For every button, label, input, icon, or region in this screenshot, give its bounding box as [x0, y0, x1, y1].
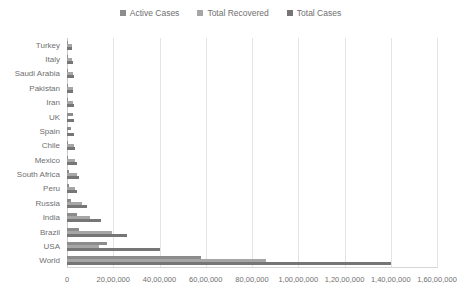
bar-group [67, 239, 437, 253]
bar-group [67, 52, 437, 66]
bar-total-cases[interactable] [67, 104, 74, 107]
plot-area-wrapper: TurkeyItalySaudi ArabiaPakistanIranUKSpa… [0, 32, 461, 294]
bar-group [67, 124, 437, 138]
legend-item[interactable]: Active Cases [120, 8, 180, 18]
y-axis-label: UK [0, 110, 64, 124]
legend-item[interactable]: Total Recovered [197, 8, 268, 18]
y-axis-label: Peru [0, 182, 64, 196]
x-axis-tick-label: 0 [65, 275, 69, 284]
bar-group [67, 153, 437, 167]
bar-group [67, 167, 437, 181]
y-axis-label: Turkey [0, 38, 64, 52]
legend-item-label: Total Cases [297, 8, 341, 18]
gridline [437, 38, 438, 268]
plot-area [67, 38, 437, 268]
y-axis-label: Saudi Arabia [0, 67, 64, 81]
bar-total-cases[interactable] [67, 47, 72, 50]
y-axis-label: Chile [0, 139, 64, 153]
bar-group [67, 254, 437, 268]
bar-total-cases[interactable] [67, 90, 73, 93]
bar-total-cases[interactable] [67, 61, 73, 64]
bar-total-cases[interactable] [67, 147, 75, 150]
bar-group [67, 196, 437, 210]
bar-group [67, 225, 437, 239]
y-axis-label: Iran [0, 96, 64, 110]
y-axis-label: Mexico [0, 153, 64, 167]
bar-total-cases[interactable] [67, 176, 79, 179]
x-axis-tick-label: 60,00,000 [189, 275, 222, 284]
bar-group [67, 139, 437, 153]
bar-total-cases[interactable] [67, 248, 160, 251]
bar-total-cases[interactable] [67, 133, 74, 136]
y-axis-label: World [0, 254, 64, 268]
y-axis-label: USA [0, 239, 64, 253]
bar-active-cases[interactable] [67, 113, 73, 116]
x-axis-tick-label: 1,60,00,000 [417, 275, 457, 284]
bar-active-cases[interactable] [67, 127, 71, 130]
chart-legend: Active CasesTotal RecoveredTotal Cases [0, 8, 461, 18]
bar-total-cases[interactable] [67, 219, 101, 222]
y-axis-label: Pakistan [0, 81, 64, 95]
bar-total-cases[interactable] [67, 262, 391, 265]
bar-group [67, 67, 437, 81]
y-axis-label: Russia [0, 196, 64, 210]
legend-swatch-icon [120, 10, 126, 16]
x-axis-tick-labels: 020,00,00040,00,00060,00,00080,00,0001,0… [67, 275, 437, 289]
bar-group [67, 38, 437, 52]
y-axis-category-labels: TurkeyItalySaudi ArabiaPakistanIranUKSpa… [0, 38, 64, 268]
legend-swatch-icon [287, 10, 293, 16]
x-axis-tick-label: 1,20,00,000 [325, 275, 365, 284]
bar-chart: Active CasesTotal RecoveredTotal Cases T… [0, 0, 461, 294]
y-axis-label: Italy [0, 52, 64, 66]
bar-group [67, 211, 437, 225]
x-axis-tick-label: 40,00,000 [143, 275, 176, 284]
x-axis-tick-label: 1,40,00,000 [371, 275, 411, 284]
bar-total-cases[interactable] [67, 162, 77, 165]
x-axis-tick-label: 80,00,000 [235, 275, 268, 284]
bar-total-cases[interactable] [67, 119, 74, 122]
legend-item-label: Total Recovered [207, 8, 268, 18]
bar-group [67, 110, 437, 124]
legend-swatch-icon [197, 10, 203, 16]
y-axis-label: Spain [0, 124, 64, 138]
bar-group [67, 96, 437, 110]
bar-total-cases[interactable] [67, 75, 74, 78]
bar-groups [67, 38, 437, 268]
y-axis-label: South Africa [0, 167, 64, 181]
bar-total-cases[interactable] [67, 234, 127, 237]
y-axis-label: Brazil [0, 225, 64, 239]
legend-item-label: Active Cases [130, 8, 180, 18]
bar-group [67, 81, 437, 95]
y-axis-label: India [0, 211, 64, 225]
bar-total-cases[interactable] [67, 205, 87, 208]
bar-group [67, 182, 437, 196]
bar-total-cases[interactable] [67, 190, 77, 193]
x-axis-tick-label: 20,00,000 [97, 275, 130, 284]
x-axis-tick-label: 1,00,00,000 [278, 275, 318, 284]
legend-item[interactable]: Total Cases [287, 8, 341, 18]
